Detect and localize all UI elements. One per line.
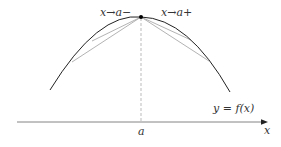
- label-point-a: a: [138, 125, 145, 138]
- curve-f: [50, 17, 230, 92]
- label-left-limit: x→a−: [100, 6, 131, 19]
- secant-right-near: [141, 17, 191, 40]
- diagram-canvas: x→a− x→a+ y = f(x) a x: [0, 0, 281, 147]
- label-right-limit: x→a+: [161, 6, 192, 19]
- label-x-axis: x: [264, 124, 271, 137]
- label-curve: y = f(x): [212, 102, 254, 115]
- secant-right-far: [141, 17, 209, 61]
- peak-point: [139, 15, 143, 19]
- secant-left-far: [72, 17, 141, 62]
